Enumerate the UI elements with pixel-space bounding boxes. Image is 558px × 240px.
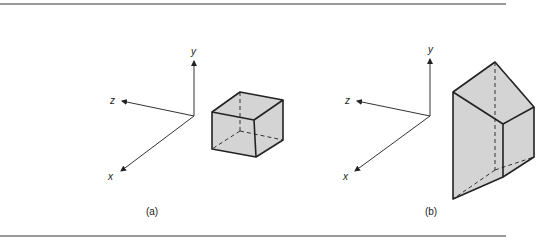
caption-a: (a) (146, 206, 158, 217)
z-axis-b (357, 101, 430, 116)
z-label-b: z (344, 95, 350, 106)
y-label-a: y (190, 46, 197, 57)
axes-a: y z x (107, 46, 197, 182)
z-label-a: z (109, 95, 115, 106)
z-axis-a (122, 101, 194, 116)
caption-b: (b) (425, 206, 437, 217)
panel-b: y z x (b) (342, 44, 534, 217)
sheared-prism (453, 62, 534, 199)
x-axis-b (355, 116, 430, 171)
axes-b: y z x (342, 44, 434, 182)
cube (212, 92, 283, 157)
panel-a: y z x (a) (107, 46, 283, 217)
figure-canvas: y z x (a) y z x (0, 0, 558, 240)
x-label-b: x (342, 171, 349, 182)
x-axis-a (121, 116, 194, 171)
x-label-a: x (107, 171, 114, 182)
y-label-b: y (427, 44, 434, 55)
